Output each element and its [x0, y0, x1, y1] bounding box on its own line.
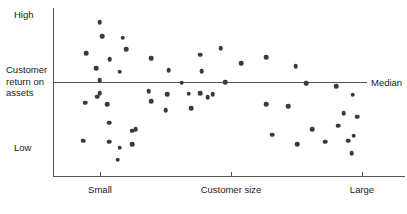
data-point: [107, 57, 112, 62]
data-point: [310, 127, 315, 132]
data-point: [107, 140, 112, 145]
data-point: [200, 69, 205, 74]
data-point: [105, 102, 110, 107]
data-point: [120, 36, 125, 41]
x-axis-tick-large: [362, 172, 363, 177]
data-point: [239, 61, 244, 66]
y-axis-title: Customer return on assets: [6, 64, 52, 99]
data-point: [198, 91, 203, 96]
data-point: [149, 99, 154, 104]
data-point: [133, 127, 138, 132]
data-point: [350, 151, 355, 156]
data-point: [198, 53, 203, 58]
data-point: [124, 47, 129, 52]
x-axis-line: [53, 176, 405, 177]
data-point: [98, 20, 103, 25]
data-point: [83, 100, 88, 105]
median-line-label: Median: [371, 77, 402, 88]
data-point: [189, 106, 194, 111]
data-point: [286, 104, 291, 109]
data-point: [351, 134, 356, 139]
data-point: [165, 92, 170, 97]
data-point: [334, 84, 339, 89]
x-axis-label-large: Large: [350, 184, 374, 195]
data-point: [98, 78, 103, 83]
data-point: [264, 102, 269, 107]
data-point: [130, 142, 135, 147]
x-axis-tick-middle: [231, 172, 232, 177]
data-point: [355, 115, 360, 120]
data-point: [223, 80, 228, 85]
data-point: [84, 51, 89, 56]
data-point: [336, 123, 341, 128]
data-point: [341, 111, 346, 116]
y-axis-label-high: High: [14, 9, 34, 20]
data-point: [94, 66, 99, 71]
data-point: [167, 68, 172, 73]
data-point: [118, 69, 123, 74]
data-point: [100, 34, 105, 39]
x-axis-label-small: Small: [88, 184, 112, 195]
y-axis-line: [53, 8, 54, 176]
y-axis-label-low: Low: [14, 142, 31, 153]
x-axis-tick-small: [100, 172, 101, 177]
data-point: [293, 64, 298, 69]
data-point: [346, 139, 351, 144]
data-point: [350, 93, 355, 98]
data-point: [264, 55, 269, 60]
data-point: [117, 145, 122, 150]
data-point: [206, 95, 211, 100]
data-point: [218, 46, 223, 51]
data-point: [81, 139, 86, 144]
data-point: [115, 157, 120, 162]
data-point: [180, 80, 185, 85]
data-point: [186, 92, 191, 97]
data-point: [304, 81, 309, 86]
scatter-chart: High Customer return on assets Low Media…: [0, 0, 407, 214]
data-point: [95, 94, 100, 99]
data-point: [163, 108, 168, 113]
data-point: [295, 142, 300, 147]
data-point: [270, 133, 275, 138]
x-axis-title: Customer size: [201, 184, 262, 195]
data-point: [107, 120, 112, 125]
data-point: [323, 139, 328, 144]
data-point: [146, 89, 151, 94]
data-point: [211, 92, 216, 97]
data-point: [149, 56, 154, 61]
